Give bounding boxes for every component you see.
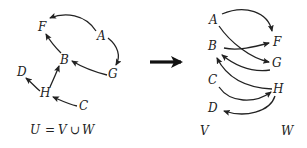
edge-a-g xyxy=(108,38,118,65)
set-w-label: W xyxy=(281,124,295,138)
right-graph: A B C D F G H V W xyxy=(200,10,295,138)
node-B: B xyxy=(207,39,217,53)
caption-w: W xyxy=(82,123,96,137)
node-G: G xyxy=(108,67,118,81)
edge-h-b xyxy=(217,58,272,89)
edge-g-b xyxy=(222,55,270,70)
node-F: F xyxy=(272,35,282,49)
node-C: C xyxy=(79,99,88,113)
node-F: F xyxy=(37,20,47,34)
edge-a-f xyxy=(222,10,272,31)
edge-c-h xyxy=(219,87,271,100)
caption-u: U xyxy=(30,123,41,137)
edge-h-b xyxy=(50,66,59,87)
caption-union: ∪ xyxy=(70,123,80,137)
node-A: A xyxy=(208,13,218,27)
union-caption: U = V ∪ W xyxy=(30,123,96,137)
edge-h-d xyxy=(224,96,275,114)
caption-v: V xyxy=(58,123,68,137)
edge-a-g xyxy=(219,26,269,62)
edge-b-f xyxy=(46,34,61,53)
node-A: A xyxy=(96,29,106,43)
node-C: C xyxy=(208,73,217,87)
diagram-canvas: F A B G D H C U = V ∪ W A B C D F G xyxy=(0,0,307,148)
edge-b-f xyxy=(224,43,269,49)
edge-g-b xyxy=(72,61,107,75)
left-graph: F A B G D H C U = V ∪ W xyxy=(16,15,118,137)
edge-h-d xyxy=(26,78,40,91)
caption-equals: = xyxy=(45,123,55,137)
node-H: H xyxy=(272,82,284,96)
node-H: H xyxy=(39,86,51,100)
set-v-label: V xyxy=(200,124,210,138)
node-D: D xyxy=(16,65,27,79)
edge-c-h xyxy=(53,97,77,106)
edge-a-f xyxy=(50,15,96,31)
node-B: B xyxy=(59,53,69,67)
node-D: D xyxy=(207,101,218,115)
node-G: G xyxy=(272,56,282,70)
